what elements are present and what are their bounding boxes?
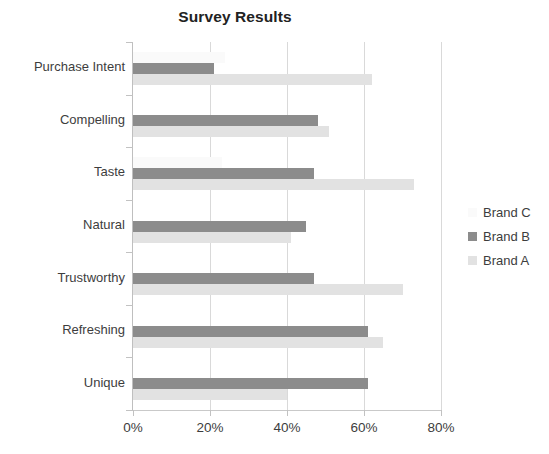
bar: [133, 337, 383, 348]
category-label: Purchase Intent: [34, 59, 125, 74]
value-axis-tick: [441, 410, 442, 416]
bar: [133, 378, 368, 389]
bar: [133, 126, 329, 137]
legend-item[interactable]: Brand B: [468, 224, 549, 248]
category-label: Refreshing: [62, 322, 125, 337]
category-axis-tick: [126, 357, 133, 358]
bar: [133, 52, 225, 63]
value-axis-tick: [364, 410, 365, 416]
legend-item[interactable]: Brand C: [468, 200, 549, 224]
bar: [133, 389, 287, 400]
category-axis-tick: [126, 95, 133, 96]
bar: [133, 74, 372, 85]
plot-area: [133, 42, 441, 410]
value-axis-tick-label: 80%: [411, 420, 471, 435]
value-axis-tick-label: 20%: [180, 420, 240, 435]
category-axis-tick: [126, 200, 133, 201]
bar: [133, 273, 314, 284]
legend-label: Brand C: [483, 205, 531, 220]
legend-label: Brand A: [483, 253, 529, 268]
legend-swatch-icon: [468, 232, 477, 241]
bar: [133, 179, 414, 190]
value-axis-tick-label: 40%: [257, 420, 317, 435]
legend-item[interactable]: Brand A: [468, 248, 549, 272]
category-label: Trustworthy: [58, 270, 125, 285]
bar: [133, 326, 368, 337]
category-axis-tick: [126, 305, 133, 306]
bar: [133, 232, 291, 243]
value-axis-tick-label: 0%: [103, 420, 163, 435]
value-axis-tick-label: 60%: [334, 420, 394, 435]
gridline: [441, 42, 442, 410]
category-axis-tick: [126, 42, 133, 43]
value-axis-tick: [287, 410, 288, 416]
category-axis-tick: [126, 252, 133, 253]
legend-label: Brand B: [483, 229, 530, 244]
category-axis-tick: [126, 410, 133, 411]
survey-results-chart: Survey Results 0%20%40%60%80% Brand CBra…: [0, 0, 549, 454]
category-label: Unique: [84, 375, 125, 390]
value-axis-tick: [133, 410, 134, 416]
category-axis-tick: [126, 147, 133, 148]
legend-swatch-icon: [468, 256, 477, 265]
bar: [133, 284, 403, 295]
bar: [133, 168, 314, 179]
category-label: Taste: [94, 164, 125, 179]
legend-swatch-icon: [468, 208, 477, 217]
bar: [133, 157, 222, 168]
bar: [133, 221, 306, 232]
category-label: Compelling: [60, 112, 125, 127]
bar: [133, 63, 214, 74]
bar: [133, 115, 318, 126]
chart-title: Survey Results: [0, 8, 470, 26]
chart-legend: Brand CBrand BBrand A: [468, 200, 549, 272]
value-axis-tick: [210, 410, 211, 416]
category-label: Natural: [83, 217, 125, 232]
